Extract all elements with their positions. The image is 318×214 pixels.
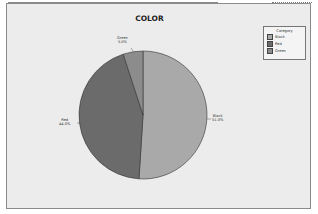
legend-swatch-black: [267, 34, 273, 40]
chart-legend: Category Black Red Green: [263, 26, 306, 60]
label-black: Black 51.0%: [212, 114, 223, 122]
slice-black: [139, 51, 207, 179]
label-green: Green 5.0%: [117, 36, 128, 44]
legend-label-black: Black: [275, 35, 285, 39]
legend-label-green: Green: [275, 49, 286, 53]
legend-title: Category: [267, 29, 302, 33]
label-green-pct: 5.0%: [117, 40, 128, 44]
legend-item-red: Red: [267, 41, 302, 47]
legend-item-black: Black: [267, 34, 302, 40]
legend-swatch-green: [267, 48, 273, 54]
legend-item-green: Green: [267, 48, 302, 54]
legend-label-red: Red: [275, 42, 282, 46]
label-red: Red 44.0%: [59, 118, 70, 126]
legend-swatch-red: [267, 41, 273, 47]
label-black-pct: 51.0%: [212, 118, 223, 122]
label-red-pct: 44.0%: [59, 122, 70, 126]
